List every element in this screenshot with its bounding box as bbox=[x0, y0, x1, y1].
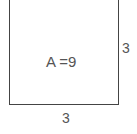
bottom-side-length-label: 3 bbox=[62, 110, 70, 126]
right-side-length-label: 3 bbox=[122, 40, 130, 56]
area-label: A =9 bbox=[46, 53, 76, 70]
